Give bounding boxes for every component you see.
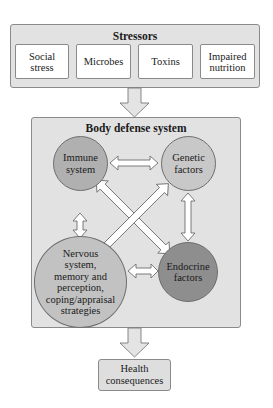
stressor-microbes: Microbes [76, 44, 131, 79]
stressors-title: Stressors [11, 30, 259, 42]
node-immune-system: Immune system [53, 136, 108, 191]
down-arrow-icon [120, 328, 149, 357]
stressor-toxins: Toxins [138, 44, 193, 79]
node-genetic-factors: Genetic factors [161, 136, 216, 191]
body-defense-title: Body defense system [32, 122, 240, 134]
health-consequences-box: Health consequences [98, 359, 171, 391]
node-endocrine-factors: Endocrine factors [158, 242, 218, 302]
down-arrow-icon [120, 88, 149, 117]
node-nervous-system: Nervous system, memory and perception, c… [34, 236, 127, 328]
stressor-social-stress: Social stress [15, 44, 69, 79]
stressor-impaired-nutrition: Impaired nutrition [200, 44, 255, 79]
